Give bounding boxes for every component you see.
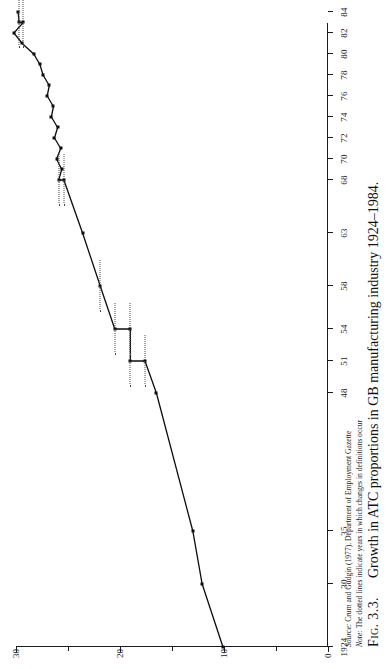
rotated-figure: 1924303548515458636870727476788082840102… [0,0,386,669]
definition-change-dotted-line [114,303,115,355]
x-axis-tick-label: 78 [339,70,349,79]
x-axis-tick [328,74,333,75]
definition-change-dotted-line [58,154,59,206]
x-axis-tick-label: 70 [339,154,349,163]
source-line: Source: Crum and Gudgin (1977). Departme… [344,177,355,647]
x-axis-tick-label: 84 [339,7,349,16]
x-axis-tick [328,360,333,361]
data-point-marker [59,147,62,150]
data-point-marker [53,137,56,140]
note-line: Note: The dotted lines indicate years in… [355,177,366,647]
x-axis-tick-label: 74 [339,112,349,121]
definition-change-dotted-line [19,0,20,49]
x-axis-tick [328,137,333,138]
x-axis-tick [328,32,333,33]
y-axis-tick-label: 10 [220,649,229,658]
data-point-marker [32,53,35,56]
data-point-marker [48,84,51,87]
x-axis-tick [328,11,333,12]
x-axis-tick [328,158,333,159]
x-axis-tick [328,179,333,180]
figure-page: 1924303548515458636870727476788082840102… [0,0,386,669]
x-axis-tick [328,530,333,531]
definition-change-dotted-line [63,154,64,206]
x-axis-tick [328,116,333,117]
data-point-marker [221,646,224,649]
data-point-marker [50,116,53,119]
data-point-marker [191,530,194,533]
series-polyline [14,12,223,647]
definition-change-dotted-line [23,0,24,49]
x-axis-tick-label: 82 [339,28,349,37]
data-point-marker [201,583,204,586]
figure-caption: Fig. 3.3. Growth in ATC proportions in G… [366,47,382,647]
x-axis-tick [328,232,333,233]
data-point-marker [56,126,59,129]
x-axis-tick [328,285,333,286]
y-axis-minor-tick [276,647,277,651]
data-point-marker [42,74,45,77]
y-axis-tick-label: 30 [12,649,21,658]
y-axis-tick [328,647,329,652]
definition-change-dotted-line [144,335,145,387]
data-point-marker [52,105,55,108]
y-axis-tick-label: 0 [324,654,333,659]
y-axis-tick-label: 20 [116,649,125,658]
data-point-marker [38,63,41,66]
definition-change-dotted-line [100,260,101,312]
x-axis-tick-label: 80 [339,49,349,58]
x-axis-tick [328,392,333,393]
data-line-series [16,23,328,647]
note-text: The dotted lines indicate years in which… [355,420,364,628]
source-text: Crum and Gudgin (1977). Department of Em… [344,431,353,622]
data-point-marker [12,32,15,35]
note-prefix: Note: [355,630,364,647]
data-point-marker [155,392,158,395]
x-axis-tick [328,583,333,584]
x-axis-tick-label: 72 [339,133,349,142]
y-axis-minor-tick [172,647,173,651]
definition-change-dotted-line [130,303,131,355]
y-axis-minor-tick [68,647,69,651]
source-note-block: Source: Crum and Gudgin (1977). Departme… [344,177,365,647]
chart-plot-area: 1924303548515458636870727476788082840102… [16,23,328,647]
data-point-marker [46,95,49,98]
figure-number: Fig. 3.3. [366,597,381,647]
source-prefix: Source: [344,624,353,647]
x-axis-tick-label: 76 [339,91,349,100]
x-axis-tick [328,53,333,54]
x-axis-tick [328,95,333,96]
data-point-marker [81,232,84,235]
caption-text: Growth in ATC proportions in GB manufact… [366,182,381,578]
x-axis-tick [328,328,333,329]
